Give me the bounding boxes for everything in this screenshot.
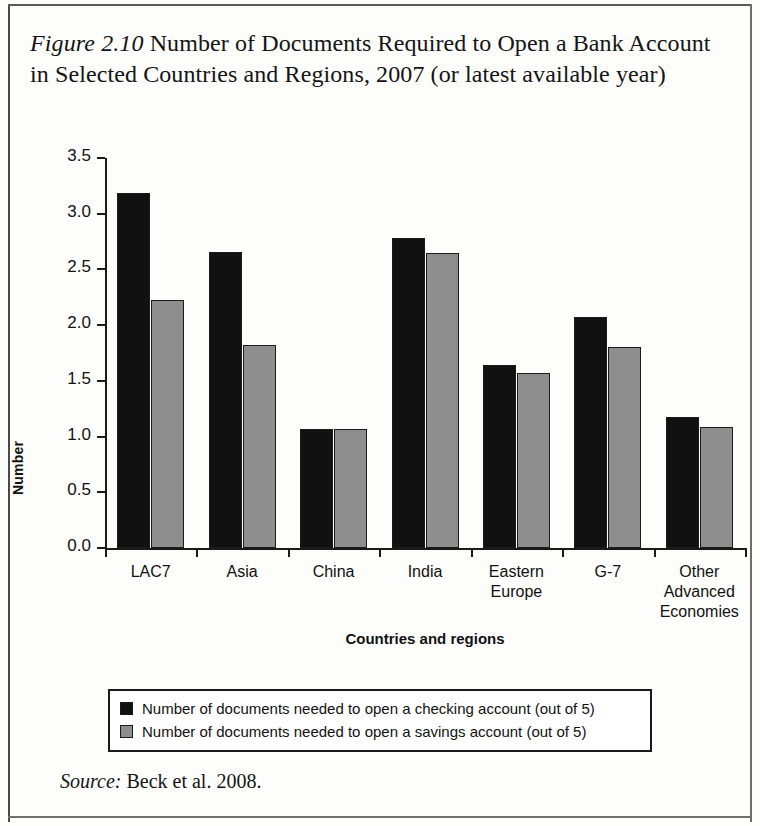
- y-axis-tick-label: 3.0: [67, 202, 91, 222]
- bar-checking: [574, 317, 607, 548]
- x-axis-category-label: Eastern Europe: [471, 562, 562, 602]
- figure-title: Figure 2.10 Number of Documents Required…: [30, 28, 720, 90]
- page-edge-top: [8, 4, 752, 6]
- y-axis-tick: 1.5: [97, 380, 105, 382]
- y-axis-tick-label: 1.5: [67, 369, 91, 389]
- bar-group: [209, 158, 276, 548]
- legend-swatch-checking: [120, 702, 133, 715]
- y-axis-tick: 2.0: [97, 324, 105, 326]
- bar-group: [483, 158, 550, 548]
- bar-checking: [209, 252, 242, 548]
- bar-chart: Number 0.00.51.01.52.02.53.03.5 LAC7Asia…: [0, 130, 760, 690]
- y-axis-tick: 2.5: [97, 268, 105, 270]
- bar-savings: [517, 373, 550, 548]
- source-label: Source:: [60, 770, 121, 792]
- x-axis-category-label: G-7: [562, 562, 653, 582]
- y-axis-tick-label: 2.5: [67, 257, 91, 277]
- bar-group: [300, 158, 367, 548]
- x-axis-tick: [105, 548, 107, 557]
- x-axis-tick: [471, 548, 473, 557]
- x-axis-category-label: Asia: [196, 562, 287, 582]
- x-axis-tick: [654, 548, 656, 557]
- x-axis-tick: [288, 548, 290, 557]
- figure-source: Source: Beck et al. 2008.: [60, 770, 261, 793]
- plot-area: 0.00.51.01.52.02.53.03.5 LAC7AsiaChinaIn…: [105, 158, 745, 548]
- y-axis-tick: 3.0: [97, 213, 105, 215]
- legend-item: Number of documents needed to open a che…: [120, 697, 640, 720]
- y-axis-title: Number: [10, 428, 26, 508]
- x-axis-tick: [196, 548, 198, 557]
- y-axis-tick: 0.0: [97, 547, 105, 549]
- source-text: Beck et al. 2008.: [121, 770, 261, 792]
- bar-checking: [117, 193, 150, 548]
- x-axis-tick: [745, 548, 747, 557]
- bar-checking: [666, 417, 699, 548]
- x-axis-category-label: China: [288, 562, 379, 582]
- y-axis-tick: 3.5: [97, 157, 105, 159]
- y-axis-tick: 1.0: [97, 436, 105, 438]
- x-axis-tick: [562, 548, 564, 557]
- x-axis-category-label: LAC7: [105, 562, 196, 582]
- y-axis-tick-label: 2.0: [67, 313, 91, 333]
- figure-number: Figure 2.10: [30, 30, 144, 56]
- bar-checking: [483, 365, 516, 548]
- legend-item: Number of documents needed to open a sav…: [120, 720, 640, 743]
- bar-savings: [334, 429, 367, 548]
- x-axis-title: Countries and regions: [105, 630, 745, 647]
- bar-group: [574, 158, 641, 548]
- legend-label: Number of documents needed to open a sav…: [142, 723, 586, 740]
- bar-savings: [426, 253, 459, 548]
- legend-swatch-savings: [120, 725, 133, 738]
- bar-savings: [243, 345, 276, 548]
- x-axis-category-label: India: [379, 562, 470, 582]
- y-axis-tick-label: 0.0: [67, 536, 91, 556]
- x-axis-category-label: Other Advanced Economies: [654, 562, 745, 622]
- bar-group: [117, 158, 184, 548]
- legend-label: Number of documents needed to open a che…: [142, 700, 595, 717]
- y-axis-tick-label: 0.5: [67, 480, 91, 500]
- x-axis-line: [105, 548, 745, 550]
- chart-legend: Number of documents needed to open a che…: [108, 689, 652, 752]
- scanned-page: Figure 2.10 Number of Documents Required…: [0, 0, 760, 826]
- bar-group: [666, 158, 733, 548]
- bar-group: [392, 158, 459, 548]
- bar-savings: [151, 300, 184, 548]
- page-edge-bottom: [8, 816, 752, 818]
- bar-checking: [300, 429, 333, 548]
- y-axis-tick-label: 3.5: [67, 146, 91, 166]
- y-axis-line: [105, 158, 107, 548]
- y-axis-tick-label: 1.0: [67, 425, 91, 445]
- bar-savings: [700, 427, 733, 548]
- bar-checking: [392, 238, 425, 548]
- bar-savings: [608, 347, 641, 548]
- x-axis-tick: [379, 548, 381, 557]
- y-axis-tick: 0.5: [97, 491, 105, 493]
